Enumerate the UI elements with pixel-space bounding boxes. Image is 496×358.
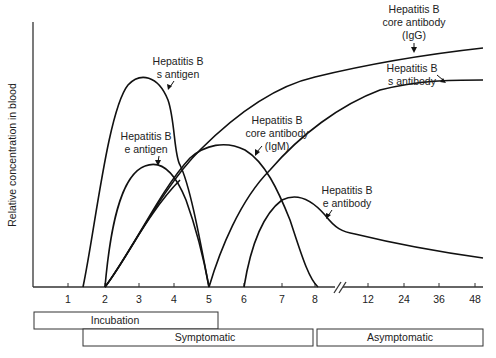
svg-text:Hepatitis B: Hepatitis B xyxy=(389,3,440,15)
tick-label: 48 xyxy=(469,293,481,305)
annotation-s-antigen: Hepatitis B s antigen xyxy=(153,55,204,90)
tick-label: 7 xyxy=(279,293,285,305)
hepatitis-b-serology-chart: Relative concentration in blood 1 2 3 4 … xyxy=(0,0,496,358)
svg-text:core antibody: core antibody xyxy=(245,127,309,139)
tick-label: 8 xyxy=(312,293,318,305)
tick-label: 24 xyxy=(398,293,410,305)
svg-text:e antigen: e antigen xyxy=(124,143,167,155)
phase-asymptomatic: Asymptomatic xyxy=(317,329,483,346)
tick-label: 12 xyxy=(362,293,374,305)
svg-text:Hepatitis B: Hepatitis B xyxy=(153,55,204,67)
svg-text:core antibody: core antibody xyxy=(382,16,446,28)
tick-label: 6 xyxy=(241,293,247,305)
svg-text:Symptomatic: Symptomatic xyxy=(175,331,236,343)
tick-label: 36 xyxy=(433,293,445,305)
annotation-core-igm: Hepatitis B core antibody (IgM) xyxy=(245,114,309,156)
svg-text:Hepatitis B: Hepatitis B xyxy=(322,184,373,196)
curve-e-antibody xyxy=(244,197,483,287)
svg-text:e antibody: e antibody xyxy=(323,197,372,209)
x-tick-labels: 1 2 3 4 5 6 7 8 12 24 36 48 xyxy=(65,293,481,305)
tick-label: 3 xyxy=(136,293,142,305)
tick-label: 4 xyxy=(171,293,177,305)
annotation-e-antibody: Hepatitis B e antibody xyxy=(322,184,373,219)
annotation-s-antibody: Hepatitis B s antibody xyxy=(387,62,446,87)
annotation-core-igg: Hepatitis B core antibody (IgG) xyxy=(382,3,446,53)
svg-text:Hepatitis B: Hepatitis B xyxy=(252,114,303,126)
svg-text:s antibody: s antibody xyxy=(388,75,437,87)
curve-s-antigen xyxy=(83,77,209,287)
svg-text:Incubation: Incubation xyxy=(91,314,140,326)
curve-e-antigen xyxy=(105,164,209,287)
arrow-icon xyxy=(411,47,417,53)
tick-label: 1 xyxy=(65,293,71,305)
phase-incubation: Incubation xyxy=(34,312,218,329)
annotation-e-antigen: Hepatitis B e antigen xyxy=(121,130,172,166)
tick-label: 2 xyxy=(102,293,108,305)
svg-text:(IgG): (IgG) xyxy=(402,29,426,41)
svg-text:s antigen: s antigen xyxy=(157,68,200,80)
svg-text:(IgM): (IgM) xyxy=(265,140,290,152)
phase-symptomatic: Symptomatic xyxy=(83,329,313,346)
svg-text:Hepatitis B: Hepatitis B xyxy=(387,62,438,74)
svg-text:Hepatitis B: Hepatitis B xyxy=(121,130,172,142)
curve-core-igm xyxy=(105,145,318,287)
curve-core-igg-lower xyxy=(105,180,180,287)
y-axis-label: Relative concentration in blood xyxy=(6,83,18,227)
svg-text:Asymptomatic: Asymptomatic xyxy=(367,331,433,343)
tick-label: 5 xyxy=(206,293,212,305)
